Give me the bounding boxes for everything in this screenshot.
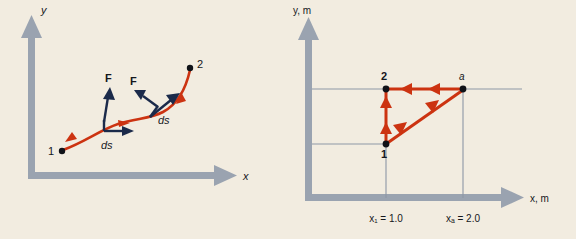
right-panel-canvas: y, m x, m y₂ = 1.0 y₁ = 0.5 x₁ = 1.0 xₐ … bbox=[288, 0, 576, 239]
left-panel-canvas: y x 1 2 bbox=[0, 0, 288, 239]
segment-a-to-2-horizontal bbox=[386, 83, 463, 95]
curved-path bbox=[63, 70, 190, 150]
force-label-2: F bbox=[130, 75, 137, 87]
segment-1-to-a-diagonal bbox=[386, 90, 463, 144]
displacement-label-1: ds bbox=[101, 139, 113, 151]
svg-text:2: 2 bbox=[197, 58, 203, 70]
point-a: a bbox=[459, 71, 466, 92]
x-axis-label: x, m bbox=[530, 193, 549, 204]
y-axis-label: y bbox=[40, 4, 48, 16]
right-panel: y, m x, m y₂ = 1.0 y₁ = 0.5 x₁ = 1.0 xₐ … bbox=[288, 0, 576, 239]
path-arrow-1 bbox=[65, 132, 77, 142]
y-axis-label: y, m bbox=[293, 5, 311, 16]
svg-text:a: a bbox=[459, 71, 465, 82]
x-axis-label: x bbox=[242, 170, 249, 182]
x1-gridline-label: x₁ = 1.0 bbox=[369, 213, 403, 224]
xa-gridline-label: xₐ = 2.0 bbox=[446, 213, 480, 224]
svg-text:2: 2 bbox=[381, 70, 387, 82]
y-axis bbox=[21, 15, 42, 175]
x-axis bbox=[305, 187, 524, 208]
x-axis bbox=[28, 165, 237, 186]
physics-figure: y x 1 2 bbox=[0, 0, 576, 239]
y-axis bbox=[298, 17, 319, 197]
svg-text:1: 1 bbox=[48, 145, 54, 157]
left-panel: y x 1 2 bbox=[0, 0, 288, 239]
force-label-1: F bbox=[105, 72, 112, 84]
point-1: 1 bbox=[48, 145, 65, 157]
point-2: 2 bbox=[187, 58, 203, 71]
svg-text:1: 1 bbox=[381, 148, 387, 160]
segment-1-to-2-vertical bbox=[380, 90, 392, 144]
displacement-label-2: ds bbox=[158, 114, 170, 126]
